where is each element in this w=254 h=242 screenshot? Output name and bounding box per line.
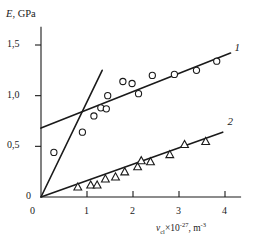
y-axis-label: E, GPa bbox=[6, 8, 36, 19]
y-tick-label: 1,5 bbox=[7, 38, 20, 49]
y-axis-unit: GPa bbox=[18, 8, 36, 19]
data-point-circle bbox=[91, 113, 97, 119]
y-tick-label: 1,0 bbox=[7, 89, 20, 100]
data-point-circle bbox=[193, 67, 199, 73]
axes-group bbox=[41, 27, 241, 197]
line-1-shallow bbox=[41, 53, 231, 128]
data-point-circle bbox=[103, 106, 109, 112]
series-2-markers bbox=[74, 137, 210, 190]
x-axis-ticks bbox=[87, 191, 225, 197]
y-axis-ticks bbox=[35, 45, 41, 146]
chart-canvas bbox=[0, 0, 254, 242]
data-point-circle bbox=[105, 93, 111, 99]
x-tick-label: 4 bbox=[222, 205, 227, 216]
x-tick-label: 0 bbox=[30, 205, 35, 216]
x-axis-unit-exponent: -3 bbox=[201, 221, 206, 228]
data-point-circle bbox=[135, 91, 141, 97]
x-tick-label: 2 bbox=[130, 205, 135, 216]
x-tick-label: 1 bbox=[84, 205, 89, 216]
data-point-circle bbox=[51, 149, 57, 155]
x-axis-times-factor: ×10 bbox=[165, 223, 180, 233]
data-point-circle bbox=[79, 129, 85, 135]
x-tick-label: 3 bbox=[176, 205, 181, 216]
y-tick-label: 0 bbox=[26, 190, 31, 201]
data-point-circle bbox=[129, 80, 135, 86]
figure-container: E, GPa νcl×10-27, m-3 00,51,01,501234 12 bbox=[0, 0, 254, 242]
data-point-triangle bbox=[102, 175, 110, 182]
data-point-circle bbox=[171, 71, 177, 77]
series-1-markers bbox=[51, 58, 220, 155]
fit-lines-group bbox=[41, 53, 231, 197]
x-axis-unit: m bbox=[193, 223, 200, 233]
data-point-triangle bbox=[93, 181, 101, 188]
curve-label-1: 1 bbox=[235, 41, 241, 53]
x-axis-label: νcl×10-27, m-3 bbox=[156, 223, 206, 233]
y-tick-label: 0,5 bbox=[7, 139, 20, 150]
data-point-circle bbox=[120, 78, 126, 84]
curve-label-2: 2 bbox=[228, 115, 234, 127]
data-point-triangle bbox=[112, 173, 120, 180]
data-point-circle bbox=[214, 58, 220, 64]
data-point-circle bbox=[149, 72, 155, 78]
